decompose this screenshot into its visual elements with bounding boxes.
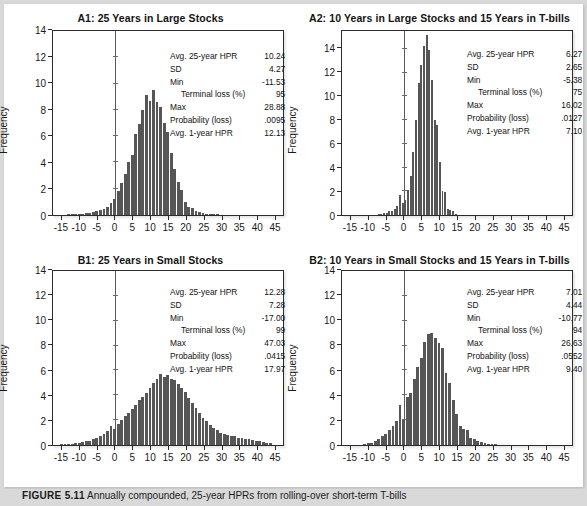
stats-value-max: 47.03 — [255, 337, 285, 350]
histogram-bar — [216, 214, 219, 215]
histogram-bar — [216, 430, 219, 445]
histogram-bar — [219, 433, 222, 445]
y-axis-tick-label: 6 — [329, 366, 335, 377]
stats-table-b2: Avg. 25-year HPR7.01 SD4.44 Min-10.77 Te… — [467, 286, 582, 375]
histogram-bar — [131, 155, 134, 215]
stats-row-avg25: Avg. 25-year HPR6.27 — [467, 48, 582, 61]
zero-line-tick — [402, 270, 407, 271]
x-axis-tick — [511, 216, 512, 220]
stats-label-sd: SD — [467, 61, 552, 74]
plot-area-a2: 02468101214-15-10-5051015202530354045 Av… — [341, 30, 573, 216]
histogram-bar — [392, 426, 395, 445]
histogram-bar — [88, 441, 91, 445]
histogram-bar — [384, 434, 387, 445]
stats-row-terminal-loss: Terminal loss (%)75 — [467, 86, 582, 99]
stats-label-terminal-loss: Terminal loss (%) — [170, 324, 255, 337]
zero-line-tick — [402, 95, 407, 96]
stats-row-avg25: Avg. 25-year HPR7.01 — [467, 286, 582, 299]
histogram-bar — [177, 182, 180, 215]
stats-box-a2: Avg. 25-year HPR6.27 SD2.65 Min-5.38 Ter… — [467, 48, 582, 137]
histogram-bar — [103, 434, 106, 445]
histogram-bar — [241, 438, 244, 445]
stats-label-max: Max — [467, 337, 552, 350]
histogram-bar — [367, 443, 370, 445]
x-axis-tick — [546, 216, 547, 220]
zero-line-tick — [113, 419, 118, 420]
histogram-bar — [442, 191, 444, 215]
histogram-bar — [106, 431, 109, 445]
histogram-bar — [149, 388, 152, 445]
figure-caption-label: FIGURE 5.11 — [22, 490, 85, 501]
histogram-bar — [127, 162, 130, 215]
zero-line-tick — [402, 167, 407, 168]
histogram-bar — [159, 107, 162, 215]
histogram-bar — [71, 214, 74, 215]
x-axis-tick — [475, 446, 476, 450]
x-axis-tick — [403, 446, 404, 450]
histogram-bar — [255, 441, 258, 445]
histogram-bar — [191, 208, 194, 215]
stats-row-avg1: Avg. 1-year HPR7.10 — [467, 125, 582, 138]
x-axis-tick-label: 35 — [523, 452, 534, 463]
histogram-bar — [141, 110, 144, 215]
x-axis-tick-label: 10 — [434, 452, 445, 463]
stats-table-b1: Avg. 25-year HPR12.28 SD7.28 Min-17.00 T… — [170, 286, 285, 375]
stats-label-avg25: Avg. 25-year HPR — [467, 48, 552, 61]
stats-row-sd: SD2.65 — [467, 61, 582, 74]
stats-label-prob-loss: Probability (loss) — [467, 350, 552, 363]
stats-value-min: -10.77 — [552, 312, 582, 325]
histogram-bar — [459, 426, 462, 445]
x-axis-tick — [439, 446, 440, 450]
histogram-bar — [81, 442, 84, 445]
stats-row-sd: SD7.28 — [170, 299, 285, 312]
stats-value-min: -11.53 — [255, 76, 285, 89]
histogram-bar — [113, 429, 116, 445]
stats-label-terminal-loss: Terminal loss (%) — [170, 88, 255, 101]
stats-value-prob-loss: .0552 — [552, 350, 582, 363]
chart-panel-a2: A2: 10 Years in Large Stocks and 15 Year… — [295, 10, 584, 250]
stats-label-avg25: Avg. 25-year HPR — [467, 286, 552, 299]
histogram-bar — [74, 214, 77, 215]
histogram-bar — [92, 439, 95, 445]
x-axis-tick-label: 30 — [505, 452, 516, 463]
x-axis-tick — [528, 216, 529, 220]
x-axis-tick-label: 25 — [198, 222, 209, 233]
stats-table-a2: Avg. 25-year HPR6.27 SD2.65 Min-5.38 Ter… — [467, 48, 582, 137]
y-axis-tick-label: 12 — [324, 67, 335, 78]
y-axis-tick-label: 8 — [329, 115, 335, 126]
histogram-bar — [209, 425, 212, 445]
x-axis-tick — [511, 446, 512, 450]
x-axis-tick — [546, 446, 547, 450]
y-axis-tick-label: 2 — [329, 187, 335, 198]
histogram-bar — [180, 190, 183, 215]
x-axis-tick-label: 35 — [234, 222, 245, 233]
stats-value-sd: 4.27 — [255, 63, 285, 76]
stats-row-avg25: Avg. 25-year HPR10.24 — [170, 50, 285, 63]
stats-value-prob-loss: .0415 — [255, 350, 285, 363]
x-axis-tick — [257, 216, 258, 220]
histogram-bar — [420, 65, 422, 215]
zero-line-tick — [113, 270, 118, 271]
stats-value-avg25: 6.27 — [552, 48, 582, 61]
stats-label-min: Min — [467, 74, 552, 87]
zero-line-tick — [113, 161, 118, 162]
histogram-bar — [170, 153, 173, 215]
histogram-bar — [269, 443, 272, 445]
x-axis-tick — [386, 216, 387, 220]
histogram-bar — [434, 120, 436, 215]
histogram-bar — [473, 439, 476, 445]
figure-caption-text: FIGURE 5.11 Annually compounded, 25-year… — [22, 490, 406, 501]
stats-box-a1: Avg. 25-year HPR10.24 SD4.27 Min-11.53 T… — [170, 50, 285, 139]
x-axis-tick-label: 25 — [487, 222, 498, 233]
stats-label-sd: SD — [467, 299, 552, 312]
histogram-bar — [423, 46, 425, 215]
histogram-bar — [163, 377, 166, 445]
histogram-bar — [455, 214, 457, 215]
histogram-bar — [455, 414, 458, 445]
x-axis-tick-label: 30 — [505, 222, 516, 233]
histogram-bar — [95, 211, 98, 215]
histogram-bar — [191, 403, 194, 445]
histogram-bar — [141, 397, 144, 445]
zero-line-tick — [113, 135, 118, 136]
x-axis-tick — [386, 446, 387, 450]
